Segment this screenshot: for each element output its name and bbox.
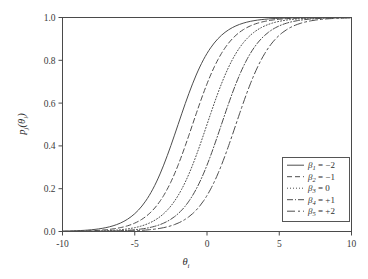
y-tick-label: 0.8 xyxy=(44,56,56,66)
x-tick-label: 5 xyxy=(277,239,282,249)
item-characteristic-curve-chart: 0.00.20.40.60.81.0 -10-50510 pj(θi) θi β… xyxy=(0,0,368,279)
x-axis-title-sub: i xyxy=(188,262,190,270)
x-tick-label: -10 xyxy=(56,239,69,249)
x-tick-label: -5 xyxy=(131,239,139,249)
chart-figure: 0.00.20.40.60.81.0 -10-50510 pj(θi) θi β… xyxy=(0,0,368,279)
legend-label-2: β2 = −1 xyxy=(307,172,335,183)
y-axis-title-close: ) xyxy=(16,113,28,118)
y-tick-label: 0.4 xyxy=(44,141,56,151)
chart-background xyxy=(0,0,368,279)
x-tick-label: 10 xyxy=(347,239,357,249)
legend-label-4: β4 = +1 xyxy=(307,195,335,206)
legend-label-1: β1 = −2 xyxy=(307,160,335,171)
x-tick-label: 0 xyxy=(205,239,210,249)
y-tick-label: 1.0 xyxy=(44,13,56,23)
legend-label-5: β5 = +2 xyxy=(307,206,335,217)
y-tick-label: 0.2 xyxy=(44,184,56,194)
y-tick-label: 0.0 xyxy=(44,227,56,237)
legend-label-3: β3 = 0 xyxy=(307,183,330,194)
y-tick-label: 0.6 xyxy=(44,99,56,109)
y-axis-title-theta: (θ xyxy=(16,119,28,128)
chart-legend: β1 = −2β2 = −1β3 = 0β4 = +1β5 = +2 xyxy=(283,158,350,222)
